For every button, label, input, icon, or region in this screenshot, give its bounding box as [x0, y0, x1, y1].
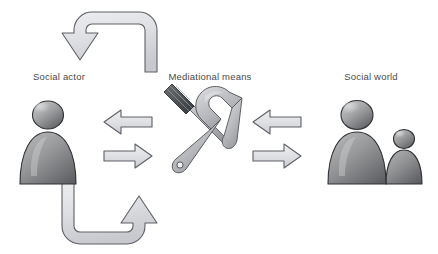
node-label-mediational-means: Mediational means [150, 71, 270, 82]
node-label-social-world: Social world [315, 71, 427, 82]
node-label-social-actor: Social actor [13, 71, 105, 82]
diagram-canvas: Social actor Mediational means Social wo… [0, 0, 438, 254]
person-figure-large-icon [328, 101, 386, 185]
person-figure-small-icon [386, 130, 422, 185]
curved-arrow-down-left-icon [62, 12, 157, 72]
left-arrow-icon [104, 110, 152, 134]
curved-arrow-up-right-icon [62, 182, 157, 244]
right-arrow-icon [253, 144, 301, 168]
diagram-graphic [0, 0, 438, 254]
left-arrow-icon [253, 110, 301, 134]
single-person-figure-icon [20, 101, 76, 184]
right-arrow-icon [104, 144, 152, 168]
two-person-figures-icon [328, 101, 422, 185]
crossed-wrench-screwdriver-icon [164, 84, 242, 173]
